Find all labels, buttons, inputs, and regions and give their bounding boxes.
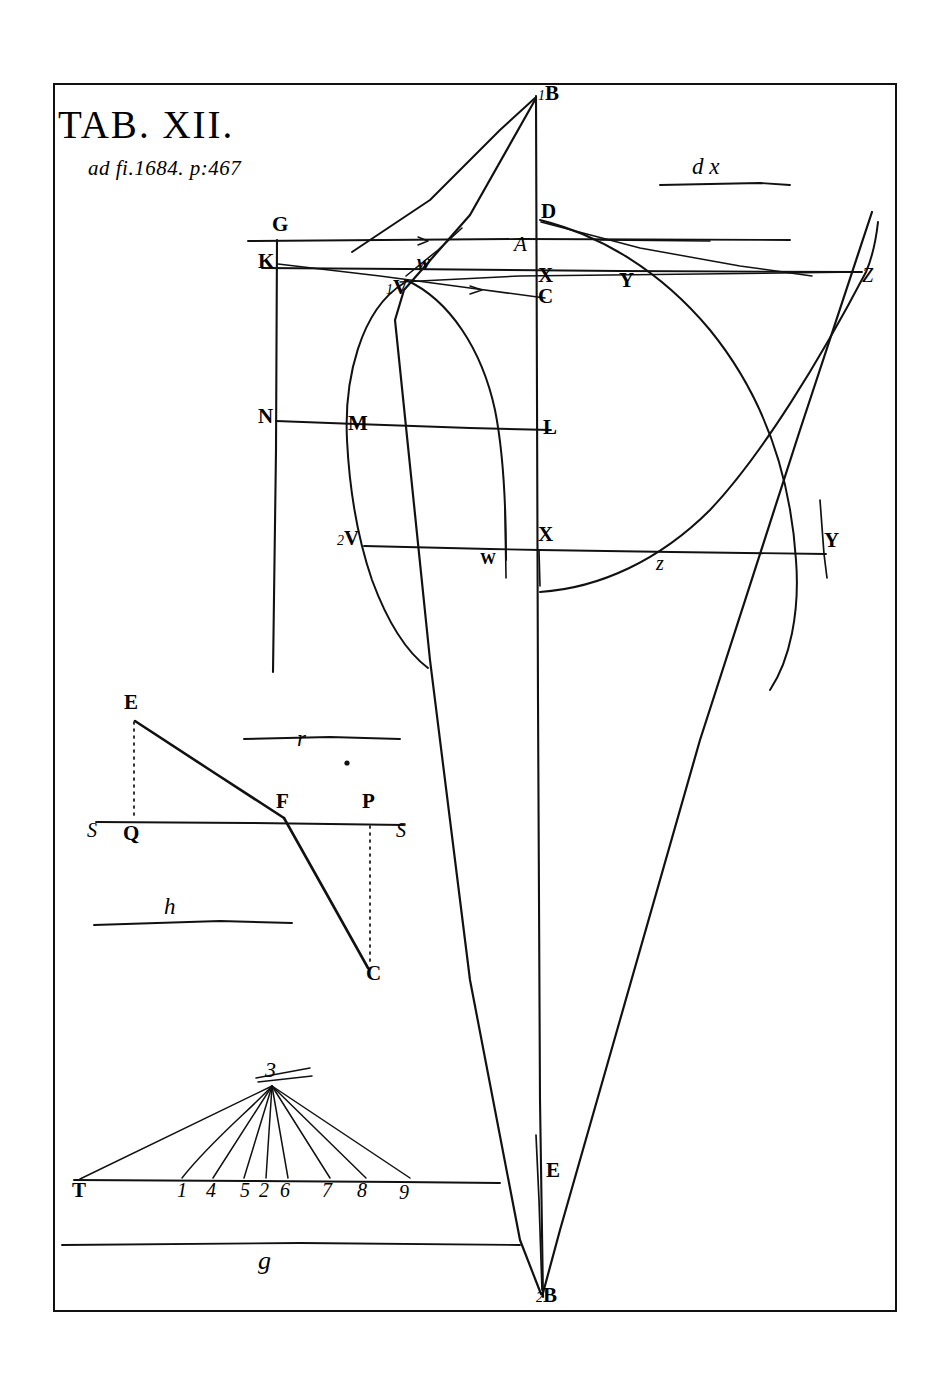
fan-label-9: 9 [399,1182,409,1202]
point-label-Y-upper: Y [619,270,634,291]
rule-under-g [62,1243,520,1245]
ink-dot [344,760,349,765]
letter-V: V [393,275,408,299]
mark-h: h [164,895,176,918]
point-label-M: M [348,413,368,434]
fan-apex-label: 3 [265,1059,276,1081]
figure-artwork [0,0,942,1387]
fan-label-8: 8 [357,1180,367,1200]
fan-label-5: 5 [240,1180,250,1200]
point-label-1B: 1B [538,83,559,104]
arrow-mark-K [470,286,482,294]
point-label-X-upper: X [538,265,553,286]
engraved-plate: TAB. XII. ad fi.1684. p:467 d x r h g 1B… [0,0,942,1387]
point-label-N: N [258,406,273,427]
fan-label-7: 7 [322,1180,332,1200]
prefix-2: 2 [337,533,344,548]
letter-B: B [545,81,559,105]
prefix-2: 2 [536,1290,543,1305]
rule-under-h [94,921,292,925]
ray-to-apex-1B [352,98,535,252]
curve-ovate-left [347,283,428,668]
ray-F-to-C [284,818,368,968]
fan-label-T: T [72,1180,86,1201]
point-label-E-refraction: E [124,692,138,713]
prefix-1: 1 [538,88,545,103]
point-label-Z: Z [862,265,873,285]
arrow-mark-G [418,237,428,245]
curve-D-through-Y-down [540,220,797,690]
page-title: TAB. XII. [58,105,234,144]
point-label-C: C [538,286,553,307]
line-2V-W-X-z-Y [364,546,826,554]
page-subtitle: ad fi.1684. p:467 [88,158,241,179]
fan-label-2: 2 [259,1180,269,1200]
point-label-S-left: S [87,820,97,840]
letter-V: V [344,526,359,550]
point-label-Y-lower: Y [824,530,839,551]
fan-label-6: 6 [280,1180,290,1200]
point-label-P: P [362,791,375,812]
point-label-A: A [514,234,527,255]
line-N-M-L [276,421,551,430]
mark-dx: d x [692,155,719,178]
rule-stray-right [600,240,710,241]
ray-E-to-F [135,721,284,818]
line-SS-horizontal [96,822,404,825]
fan-label-1: 1 [177,1180,187,1200]
point-label-2V: 2V [337,528,359,549]
rule-under-r [244,737,400,739]
axis-vertical-left [273,240,277,672]
point-label-S-right: S [396,820,406,840]
fan-ray-2 [266,1086,272,1178]
fan-ray-T [80,1086,272,1179]
point-label-L: L [543,417,557,438]
ray-Z-to-2B [543,212,872,1293]
mark-r: r [297,727,306,750]
letter-B: B [543,1283,557,1307]
point-label-F: F [276,791,289,812]
point-label-2B: 2B [536,1285,557,1306]
fan-ray-9 [272,1086,410,1178]
tick-vertical-X2 [539,550,540,586]
point-label-E-axis: E [546,1160,560,1181]
point-label-1V: 1V [386,277,408,298]
mark-g: g [258,1248,271,1274]
point-label-G: G [272,214,288,235]
point-label-Q: Q [123,823,139,844]
point-label-C-refraction: C [366,963,381,984]
rule-under-dx [660,183,790,185]
point-label-W-lower: W [480,551,496,567]
fan-label-4: 4 [206,1180,216,1200]
point-label-z-lower: z [656,553,664,573]
point-label-D: D [541,201,556,222]
point-label-X-lower: X [538,524,553,545]
curve-teardrop-inner [406,280,506,560]
prefix-1: 1 [386,282,393,297]
point-label-w-upper: w [417,252,430,272]
chord-D-right [541,222,812,276]
point-label-K: K [258,251,274,272]
